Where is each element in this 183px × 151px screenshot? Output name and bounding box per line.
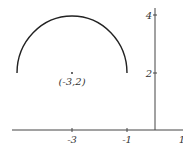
semicircle-curve [17, 16, 127, 73]
center-point [71, 72, 73, 74]
x-tick-label-1: 1 [179, 134, 183, 145]
center-label: (-3,2) [58, 76, 85, 87]
x-tick-label-neg1: -1 [122, 134, 132, 145]
y-tick-label-2: 2 [145, 68, 152, 79]
x-tick-label-neg3: -3 [67, 134, 77, 145]
semicircle-diagram: (-3,2) -3 -1 1 2 4 [0, 0, 183, 151]
y-tick-label-4: 4 [145, 10, 152, 21]
